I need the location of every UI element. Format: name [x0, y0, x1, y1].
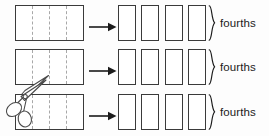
diagram-canvas: fourths fourths [0, 0, 269, 136]
fourths-label: fourths [220, 102, 256, 122]
diagram-row: fourths [0, 45, 269, 89]
right-curly-brace-icon [208, 5, 218, 41]
fourths-label: fourths [220, 57, 256, 77]
whole-bar-part [67, 6, 83, 40]
cut-pieces-group [118, 5, 206, 41]
whole-bar [15, 49, 84, 85]
cut-pieces-group [118, 49, 206, 85]
whole-bar-part [67, 95, 83, 129]
right-arrow-icon [89, 62, 117, 72]
right-arrow-icon [89, 107, 117, 117]
whole-bar-part [33, 95, 50, 129]
cut-piece [165, 49, 183, 85]
whole-bar-part [16, 50, 33, 84]
whole-bar-part [50, 95, 67, 129]
whole-bar-part [16, 6, 33, 40]
diagram-row: fourths [0, 90, 269, 134]
cut-piece [118, 5, 136, 41]
cut-piece [165, 94, 183, 130]
cut-pieces-group [118, 94, 206, 130]
cut-piece [141, 94, 159, 130]
cut-piece [165, 5, 183, 41]
cut-piece [188, 94, 206, 130]
whole-bar-part [50, 50, 67, 84]
whole-bar-part [67, 50, 83, 84]
whole-bar [15, 94, 84, 130]
cut-piece [188, 49, 206, 85]
diagram-row: fourths [0, 1, 269, 45]
whole-bar-part [16, 95, 33, 129]
right-arrow-icon [89, 18, 117, 28]
cut-piece [188, 5, 206, 41]
fourths-label: fourths [220, 13, 256, 33]
whole-bar [15, 5, 84, 41]
cut-piece [118, 49, 136, 85]
whole-bar-part [50, 6, 67, 40]
right-curly-brace-icon [208, 94, 218, 130]
cut-piece [118, 94, 136, 130]
cut-piece [141, 49, 159, 85]
cut-piece [141, 5, 159, 41]
right-curly-brace-icon [208, 49, 218, 85]
whole-bar-part [33, 6, 50, 40]
whole-bar-part [33, 50, 50, 84]
